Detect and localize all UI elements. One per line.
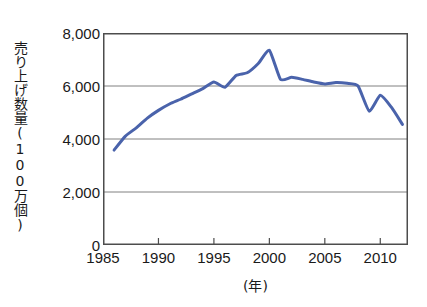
x-axis-label: (年): [103, 275, 408, 295]
x-tick-label-1985: 1985: [86, 250, 119, 265]
x-tick-label-2000: 2000: [253, 250, 286, 265]
x-tick-label-2010: 2010: [364, 250, 397, 265]
x-tick-label-1995: 1995: [197, 250, 230, 265]
chart-figure: 売り上げ数量(100万個) 02,0004,0006,0008,000 1985…: [0, 0, 427, 307]
x-tick-label-2005: 2005: [308, 250, 341, 265]
x-tick-label-1990: 1990: [142, 250, 175, 265]
x-axis-tick-labels: 198519901995200020052010: [0, 0, 427, 307]
